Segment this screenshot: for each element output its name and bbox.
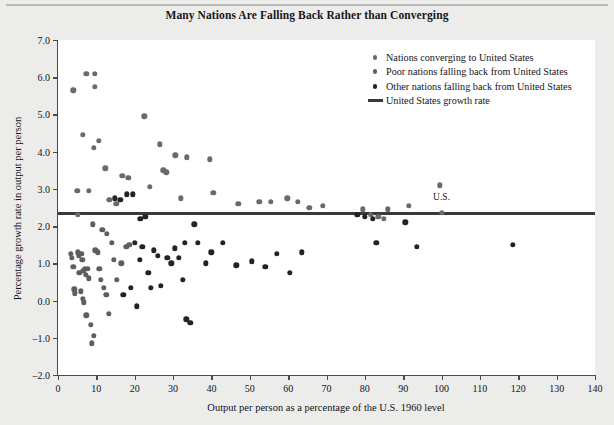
scatter-point	[157, 142, 162, 147]
scatter-point	[109, 240, 114, 245]
scatter-point	[92, 71, 97, 76]
scatter-point	[72, 290, 77, 295]
scatter-point	[96, 138, 101, 143]
x-axis-tick-label: 110	[473, 383, 488, 394]
y-axis-tick	[53, 338, 58, 339]
page-title: Many Nations Are Falling Back Rather tha…	[0, 9, 614, 21]
scatter-point	[203, 261, 208, 266]
legend-dot-icon	[364, 84, 386, 89]
x-axis-tick-label: 30	[168, 383, 178, 394]
scatter-point	[71, 88, 76, 93]
scatter-point	[91, 333, 96, 338]
x-axis-tick-label: 50	[245, 383, 255, 394]
y-axis-tick	[53, 263, 58, 264]
scatter-point	[121, 292, 126, 297]
scatter-point	[155, 253, 160, 258]
scatter-point	[89, 341, 94, 346]
scatter-point	[172, 246, 177, 251]
legend-item-converging[interactable]: Nations converging to United States	[364, 50, 604, 65]
y-axis-tick-label: 1.0	[38, 258, 51, 269]
x-axis-tick-label: 100	[434, 383, 449, 394]
scatter-point	[114, 277, 119, 282]
scatter-point	[234, 262, 239, 267]
y-axis-tick-label: –2.0	[33, 370, 51, 381]
x-axis-tick	[135, 375, 136, 380]
us-growth-rate-line	[58, 212, 595, 215]
scatter-point	[91, 145, 96, 150]
scatter-point	[299, 249, 304, 254]
x-axis-tick-label: 80	[360, 383, 370, 394]
x-axis-tick	[250, 375, 251, 380]
scatter-point	[106, 311, 111, 316]
y-axis-tick-label: 2.0	[38, 221, 51, 232]
scatter-point	[158, 283, 163, 288]
scatter-point	[128, 285, 133, 290]
x-axis-tick	[211, 375, 212, 380]
x-axis-tick	[403, 375, 404, 380]
scatter-point	[374, 240, 379, 245]
x-axis-tick	[442, 375, 443, 380]
scatter-point	[81, 300, 86, 305]
scatter-point	[142, 114, 147, 119]
y-axis-tick	[53, 226, 58, 227]
legend-item-label: Poor nations falling back from United St…	[386, 66, 568, 77]
legend-item-label: Other nations falling back from United S…	[386, 81, 572, 92]
x-axis-tick-label: 40	[206, 383, 216, 394]
y-axis-tick	[53, 189, 58, 190]
legend-dot-icon	[364, 69, 386, 74]
scatter-point	[111, 257, 116, 262]
scatter-point	[71, 264, 76, 269]
legend-item-poor[interactable]: Poor nations falling back from United St…	[364, 65, 604, 80]
scatter-point	[406, 203, 411, 208]
x-axis-tick	[480, 375, 481, 380]
scatter-point	[168, 261, 173, 266]
dot-swatch	[373, 84, 378, 89]
dot-swatch	[373, 55, 378, 60]
scatter-point	[132, 240, 137, 245]
scatter-point	[510, 242, 515, 247]
scatter-point	[191, 222, 196, 227]
scatter-point	[320, 203, 325, 208]
scatter-point	[84, 71, 89, 76]
scatter-point	[125, 175, 130, 180]
scatter-point	[95, 249, 100, 254]
scatter-point	[402, 220, 407, 225]
x-axis-tick	[518, 375, 519, 380]
scatter-point	[307, 205, 312, 210]
scatter-point	[97, 266, 102, 271]
scatter-point	[209, 249, 214, 254]
legend-item-us_line[interactable]: United States growth rate	[364, 94, 604, 109]
scatter-point	[220, 240, 225, 245]
scatter-point	[182, 240, 187, 245]
scatter-point	[104, 292, 109, 297]
scatter-point	[145, 270, 150, 275]
scatter-point	[148, 285, 153, 290]
y-axis-tick	[53, 114, 58, 115]
legend-item-other[interactable]: Other nations falling back from United S…	[364, 79, 604, 94]
x-axis-tick-label: 10	[91, 383, 101, 394]
scatter-point	[376, 214, 381, 219]
scatter-point	[268, 199, 273, 204]
scatter-point	[101, 285, 106, 290]
x-axis-tick-label: 90	[398, 383, 408, 394]
y-axis-tick-label: 3.0	[38, 183, 51, 194]
x-axis-tick	[58, 375, 59, 380]
x-axis-title: Output per person as a percentage of the…	[57, 402, 595, 413]
scatter-point	[85, 266, 90, 271]
scatter-point	[69, 255, 74, 260]
scatter-point	[285, 195, 290, 200]
scatter-point	[274, 251, 279, 256]
scatter-point	[207, 156, 212, 161]
scatter-point	[134, 303, 139, 308]
y-axis-tick-label: 7.0	[38, 35, 51, 46]
x-axis-tick-label: 0	[56, 383, 61, 394]
scatter-point	[414, 244, 419, 249]
scatter-point	[249, 259, 254, 264]
scatter-point	[362, 214, 367, 219]
scatter-point	[147, 184, 152, 189]
scatter-point	[90, 222, 95, 227]
y-axis-tick	[53, 40, 58, 41]
legend-item-label: Nations converging to United States	[386, 52, 534, 63]
scatter-point	[195, 240, 200, 245]
scatter-point	[211, 190, 216, 195]
